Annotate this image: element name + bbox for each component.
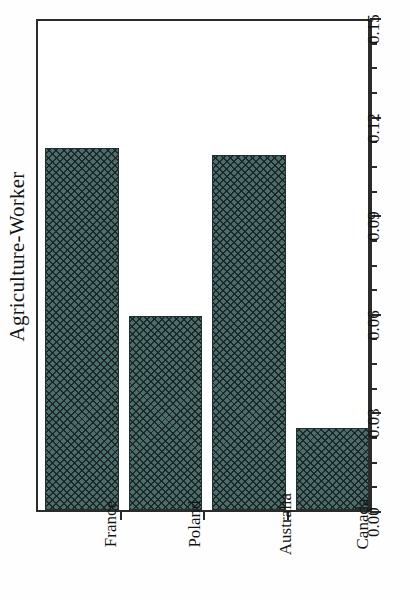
y-axis-tick-label: 0.03 <box>364 409 384 439</box>
y-axis-minor-tick <box>372 191 377 193</box>
y-axis-title-container: Agriculture-Worker <box>0 0 36 512</box>
bar-poland[interactable] <box>129 316 203 510</box>
chart-figure: Agriculture-Worker 0.000.030.060.090.120… <box>0 0 410 600</box>
y-axis-tick-label: 0.06 <box>364 310 384 340</box>
category-axis: FrancePolandAustraliaCanada <box>36 512 370 600</box>
category-label-canada: Canada <box>354 499 374 550</box>
y-axis-tick-label: 0.09 <box>364 211 384 241</box>
y-axis-minor-tick <box>372 462 377 464</box>
bar-australia[interactable] <box>212 155 286 510</box>
category-label-poland: Poland <box>185 500 205 547</box>
value-axis: 0.000.030.060.090.120.15 <box>370 19 371 512</box>
y-axis-title: Agriculture-Worker <box>6 171 31 341</box>
y-axis-minor-tick <box>372 92 377 94</box>
y-axis-minor-tick <box>372 166 377 168</box>
y-axis-minor-tick <box>372 265 377 267</box>
plot-area <box>36 19 370 512</box>
y-axis-minor-tick <box>372 388 377 390</box>
y-axis-minor-tick <box>372 363 377 365</box>
y-axis-minor-tick <box>372 289 377 291</box>
y-axis-minor-tick <box>372 67 377 69</box>
y-axis-tick-label: 0.12 <box>364 113 384 143</box>
bars-layer <box>38 21 368 510</box>
category-label-australia: Australia <box>276 493 296 555</box>
y-axis-minor-tick <box>372 486 377 488</box>
y-axis-tick-label: 0.15 <box>364 14 384 44</box>
bar-france[interactable] <box>45 148 119 510</box>
category-label-france: France <box>101 501 121 547</box>
